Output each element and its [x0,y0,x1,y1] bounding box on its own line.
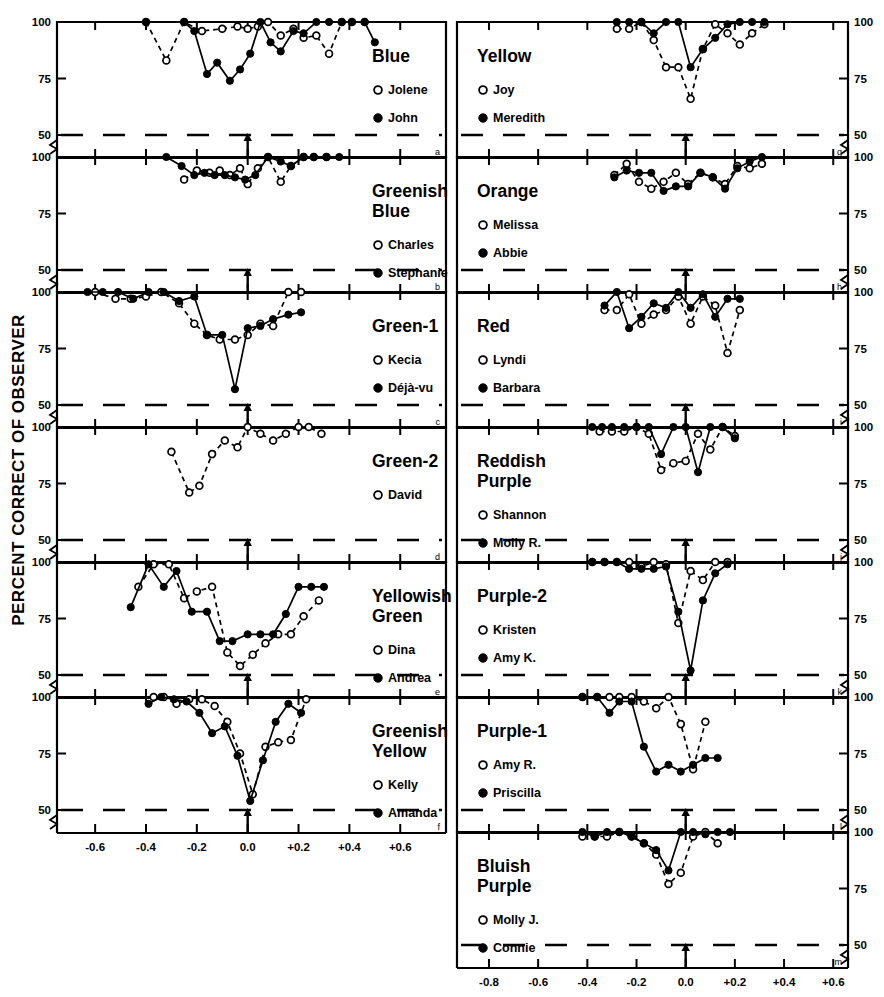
data-point-filled [231,174,238,181]
series-line [149,697,302,801]
data-point-filled [613,18,620,25]
legend-label: David [388,488,422,502]
data-point-filled [734,165,741,172]
data-point-filled [675,18,682,25]
data-point-open [623,160,630,167]
data-point-filled [338,18,345,25]
legend-label: Melissa [493,218,539,232]
data-point-filled [244,325,251,332]
data-point-filled [648,169,655,176]
series-line [592,562,727,671]
panel-title: Reddish [477,451,546,471]
legend-marker-filled [374,269,382,277]
legend-marker-filled [479,384,487,392]
data-point-filled [687,304,694,311]
data-point-filled [247,797,254,804]
x-tick-label: -0.6 [528,976,548,988]
series-kristen [589,559,731,627]
data-point-open [232,336,239,343]
data-point-filled [638,565,645,572]
data-point-open [746,165,753,172]
data-point-filled [589,558,596,565]
data-point-filled [252,171,259,178]
data-point-filled [633,423,640,430]
data-point-open [193,588,200,595]
panel-l: 5075100Purple-1Amy R.Priscillal [457,691,873,833]
data-point-filled [714,828,721,835]
y-tick-label: 100 [854,556,873,568]
data-point-filled [724,21,731,28]
data-point-filled [589,423,596,430]
data-point-filled [638,18,645,25]
data-point-open [712,302,719,309]
series-connie [579,828,734,874]
data-point-filled [707,423,714,430]
y-tick-label: 100 [854,286,873,298]
data-point-open [305,424,312,431]
data-point-open [165,561,172,568]
data-point-filled [211,171,218,178]
data-point-filled [613,288,620,295]
panel-i: 5075100RedLyndiBarbarai [457,286,873,428]
panel-b: 5075100GreenishBlueCharlesStephanieb [32,151,448,293]
legend-marker-open [479,916,487,924]
panel-letter: d [435,552,440,562]
data-point-open [687,320,694,327]
y-tick-label: 50 [854,939,867,951]
panel-title: Yellow [372,741,427,761]
data-point-open [262,640,269,647]
data-point-open [613,25,620,32]
legend-label: Kristen [493,623,536,637]
data-point-filled [114,288,121,295]
data-point-open [665,694,672,701]
legend-label: Stephanie [388,266,448,280]
data-point-open [702,718,709,725]
y-tick-label: 50 [38,264,51,276]
y-tick-label: 75 [854,613,867,625]
data-point-open [285,289,292,296]
panel-a: 5075100BlueJoleneJohna [32,16,446,158]
data-point-filled [267,39,274,46]
data-point-filled [264,153,271,160]
x-axis-labels-left: -0.6-0.4-0.20.0+0.2+0.4+0.6 [85,841,411,853]
data-point-open [636,178,643,185]
data-point-filled [320,583,327,590]
panel-title: Greenish [372,721,448,741]
data-point-open [275,739,282,746]
data-point-filled [623,167,630,174]
data-point-open [288,737,295,744]
data-point-filled [603,828,610,835]
data-point-open [670,460,677,467]
data-point-filled [662,304,669,311]
data-point-open [288,631,295,638]
data-point-filled [130,295,137,302]
data-point-open [677,869,684,876]
data-point-filled [761,18,768,25]
x-tick-label: +0.2 [287,841,310,853]
y-tick-label: 100 [32,556,51,568]
legend-marker-open [479,356,487,364]
data-point-filled [598,423,605,430]
y-axis-title-group: PERCENT CORRECT OF OBSERVER [9,314,28,626]
data-point-filled [203,608,210,615]
data-point-filled [295,583,302,590]
data-point-filled [285,311,292,318]
panel-letter: m [835,957,843,967]
data-point-filled [325,18,332,25]
data-point-filled [145,561,152,568]
data-point-filled [653,846,660,853]
data-point-filled [616,698,623,705]
series-david [168,424,325,496]
legend-label: Kelly [388,778,418,792]
data-point-filled [721,185,728,192]
data-point-filled [640,743,647,750]
data-point-filled [650,565,657,572]
figure-container: 5075100BlueJoleneJohna5075100GreenishBlu… [0,0,884,997]
legend-marker-filled [479,654,487,662]
panel-letter: b [435,282,440,292]
x-axis-labels-right: -0.8-0.6-0.4-0.20.0+0.2+0.4+0.6 [479,976,845,988]
y-tick-label: 100 [854,151,873,163]
legend-label: Abbie [493,246,528,260]
y-tick-label: 50 [38,534,51,546]
legend-label: Shannon [493,508,546,522]
